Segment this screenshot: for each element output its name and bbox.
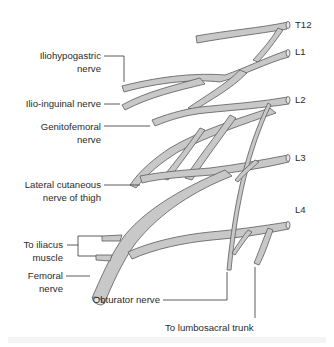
l4-cap [286, 222, 290, 229]
label-genitofemoral-line2: nerve [0, 134, 101, 147]
t12-cap [286, 22, 290, 29]
label-lateral-cutaneous: Lateral cutaneous nerve of thigh [0, 179, 101, 204]
l2-cap [286, 97, 290, 104]
root-label-l1: L1 [295, 46, 306, 59]
label-lateral-cutaneous-line1: Lateral cutaneous [0, 179, 101, 192]
label-ilioinguinal: Ilio-inguinal nerve [0, 98, 101, 111]
label-iliohypogastric-line2: nerve [0, 63, 101, 76]
leader-obturator [163, 272, 227, 300]
label-femoral-line2: nerve [0, 283, 63, 296]
label-lumbosacral: To lumbosacral trunk [165, 322, 254, 335]
l1-root [122, 50, 289, 92]
leader-iliohypogastric [104, 56, 124, 82]
label-lateral-cutaneous-line2: nerve of thigh [0, 192, 101, 205]
label-iliacus-line2: muscle [0, 252, 63, 265]
lumbar-plexus-diagram: T12 L1 L2 L3 L4 Iliohypogastric nerve Il… [0, 0, 334, 347]
label-iliacus-line1: To iliacus [0, 239, 63, 252]
label-genitofemoral: Genitofemoral nerve [0, 121, 101, 146]
label-femoral: Femoral nerve [0, 270, 63, 295]
label-iliacus: To iliacus muscle [0, 239, 63, 264]
iliacus-branch-lower [96, 255, 112, 261]
label-femoral-line1: Femoral [0, 270, 63, 283]
label-iliohypogastric: Iliohypogastric nerve [0, 50, 101, 75]
root-label-l4: L4 [295, 204, 306, 217]
label-obturator: Obturator nerve [60, 294, 160, 307]
root-label-l2: L2 [295, 94, 306, 107]
label-genitofemoral-line1: Genitofemoral [0, 121, 101, 134]
root-label-l3: L3 [295, 152, 306, 165]
leader-iliacus [67, 236, 102, 245]
iliacus-branch-upper [102, 235, 122, 241]
l3-cap [286, 155, 290, 162]
root-label-t12: T12 [295, 19, 312, 32]
bottom-band [8, 337, 326, 343]
l1-cap [286, 50, 290, 57]
label-iliohypogastric-line1: Iliohypogastric [0, 50, 101, 63]
